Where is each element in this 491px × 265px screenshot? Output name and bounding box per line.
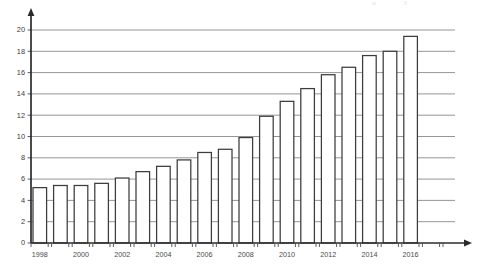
y-axis-tick-label: 12	[17, 111, 25, 120]
x-axis-tick-label: 2004	[155, 250, 171, 259]
bar-2010	[280, 101, 294, 243]
bar-2007	[218, 149, 232, 243]
bar-2004	[157, 166, 171, 243]
bar-2005	[177, 160, 191, 243]
y-axis-tick-label: 8	[21, 153, 25, 162]
bar-2002	[115, 178, 129, 243]
y-axis-arrow-icon	[28, 8, 35, 16]
y-axis-tick-label: 4	[21, 196, 25, 205]
bar-2001	[95, 183, 109, 243]
bar-2016	[404, 36, 418, 243]
y-axis-tick-label: 18	[17, 47, 25, 56]
bar-2006	[198, 152, 212, 243]
x-axis-arrow-icon	[464, 240, 472, 247]
scan-artifact	[372, 2, 376, 5]
x-axis-tick-label: 2010	[279, 250, 295, 259]
x-axis-tick-label: 2000	[73, 250, 89, 259]
y-axis-tick-label: 14	[17, 89, 25, 98]
bar-2009	[260, 116, 274, 243]
x-axis-tick-label: 2014	[361, 250, 377, 259]
x-axis-tick-label: 2006	[197, 250, 213, 259]
bar-2011	[301, 89, 315, 243]
bar-2003	[136, 172, 150, 243]
y-axis-tick-label: 6	[21, 174, 25, 183]
bar-1999	[54, 185, 68, 243]
x-axis-tick-label: 2008	[238, 250, 254, 259]
scan-artifact	[404, 1, 407, 5]
y-axis-tick-label: 20	[17, 25, 25, 34]
bar-2013	[342, 67, 356, 243]
bar-2015	[383, 51, 397, 243]
x-axis-tick-label: 1998	[32, 250, 48, 259]
y-axis-tick-label: 2	[21, 217, 25, 226]
y-axis-tick-label: 0	[21, 238, 25, 247]
bar-2012	[321, 75, 335, 243]
bar-2014	[363, 56, 377, 243]
x-axis-tick-label: 2012	[320, 250, 336, 259]
chart-canvas: 0246810121416182019982000200220042006200…	[0, 0, 491, 265]
x-axis-tick-label: 2016	[403, 250, 419, 259]
bar-1998	[33, 188, 47, 243]
y-axis-tick-label: 16	[17, 68, 25, 77]
x-axis-tick-label: 2002	[114, 250, 130, 259]
bar-2008	[239, 138, 253, 243]
y-axis-tick-label: 10	[17, 132, 25, 141]
bar-chart-figure: 0246810121416182019982000200220042006200…	[0, 0, 491, 265]
bar-2000	[74, 185, 88, 243]
